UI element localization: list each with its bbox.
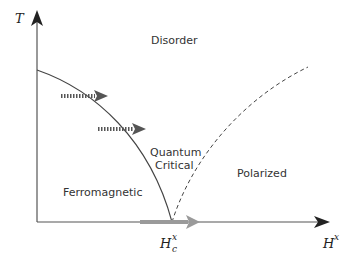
region-label-disorder: Disorder — [151, 34, 198, 47]
thermal-crossing-arrow-upper-icon — [61, 90, 108, 102]
critical-field-label: H x c — [159, 232, 177, 254]
region-label-quantum-critical-line1: Quantum — [150, 146, 201, 159]
svg-text:H: H — [159, 236, 172, 251]
x-axis-label: H x — [322, 232, 339, 251]
quantum-tuning-arrow-icon — [140, 215, 200, 229]
y-axis-label: T — [15, 11, 25, 26]
svg-text:x: x — [172, 232, 177, 242]
region-label-quantum-critical-line2: Critical — [155, 159, 193, 172]
svg-text:c: c — [172, 244, 177, 254]
thermal-crossing-arrow-lower-icon — [98, 123, 146, 135]
svg-text:x: x — [334, 232, 339, 242]
crossover-dashed-curve — [172, 67, 308, 222]
x-axis: H x — [37, 216, 339, 251]
region-label-ferromagnetic: Ferromagnetic — [63, 186, 142, 199]
y-axis: T — [15, 10, 43, 222]
region-label-polarized: Polarized — [237, 167, 287, 180]
phase-diagram: T H x H x c Disorder Quantum Critical Fe… — [0, 0, 356, 259]
